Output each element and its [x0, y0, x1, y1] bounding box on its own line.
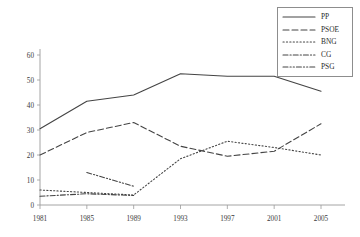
series-line-bng — [40, 141, 321, 195]
legend-label: PSOE — [321, 25, 339, 35]
series-line-psg — [87, 173, 134, 187]
x-axis-tick-labels: 1981198519891993199720012005 — [33, 215, 329, 223]
legend-label: BNG — [321, 37, 337, 47]
legend-item-bng: BNG — [281, 36, 348, 49]
x-tick-label: 1985 — [80, 215, 95, 223]
x-tick-label: 1981 — [33, 215, 48, 223]
legend-label: PP — [321, 12, 329, 22]
y-tick-label: 40 — [27, 102, 35, 110]
y-tick-label: 50 — [27, 77, 35, 85]
chart-series-lines — [40, 74, 321, 197]
x-tick-label: 1993 — [173, 215, 188, 223]
x-tick-label: 2005 — [314, 215, 329, 223]
legend-line-sample-bng — [281, 37, 317, 47]
chart-legend: PPPSOEBNGCGPSG — [277, 7, 353, 77]
y-tick-label: 0 — [30, 202, 34, 210]
x-tick-label: 2001 — [267, 215, 282, 223]
y-tick-label: 30 — [27, 127, 35, 135]
y-axis-tick-labels: 0102030405060 — [27, 52, 35, 210]
legend-item-list: PPPSOEBNGCGPSG — [278, 8, 352, 77]
x-tick-label: 1989 — [126, 215, 141, 223]
legend-item-cg: CG — [281, 49, 348, 62]
legend-item-psoe: PSOE — [281, 24, 348, 37]
legend-label: PSG — [321, 62, 335, 72]
series-line-pp — [40, 74, 321, 129]
legend-line-sample-psg — [281, 62, 317, 72]
x-tick-label: 1997 — [220, 215, 235, 223]
legend-line-sample-psoe — [281, 25, 317, 35]
y-tick-label: 10 — [27, 177, 35, 185]
legend-line-sample-pp — [281, 12, 317, 22]
line-chart: 0102030405060 19811985198919931997200120… — [0, 0, 360, 237]
y-tick-label: 60 — [27, 52, 35, 60]
series-line-psoe — [40, 123, 321, 157]
legend-label: CG — [321, 50, 331, 60]
legend-item-psg: PSG — [281, 61, 348, 74]
y-tick-label: 20 — [27, 152, 35, 160]
legend-item-pp: PP — [281, 11, 348, 24]
legend-line-sample-cg — [281, 50, 317, 60]
